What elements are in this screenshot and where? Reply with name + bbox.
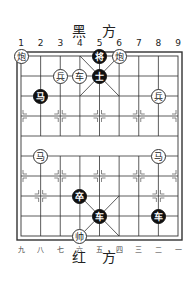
piece-black-车[interactable]: 车 bbox=[92, 209, 107, 224]
piece-black-士[interactable]: 士 bbox=[92, 69, 107, 84]
piece-white-炮[interactable]: 炮 bbox=[14, 49, 29, 64]
bottom-side-label: 红 方 bbox=[0, 246, 194, 266]
piece-black-马[interactable]: 马 bbox=[33, 89, 48, 104]
piece-white-马[interactable]: 马 bbox=[33, 149, 48, 164]
piece-white-兵[interactable]: 兵 bbox=[151, 89, 166, 104]
piece-white-马[interactable]: 马 bbox=[151, 149, 166, 164]
piece-white-车[interactable]: 车 bbox=[72, 69, 87, 84]
piece-black-卒[interactable]: 卒 bbox=[72, 189, 87, 204]
piece-white-帅[interactable]: 帅 bbox=[72, 229, 87, 244]
piece-black-车[interactable]: 车 bbox=[151, 209, 166, 224]
piece-white-炮[interactable]: 炮 bbox=[112, 49, 127, 64]
piece-white-兵[interactable]: 兵 bbox=[53, 69, 68, 84]
board-grid bbox=[0, 0, 194, 285]
piece-black-将[interactable]: 将 bbox=[92, 49, 107, 64]
